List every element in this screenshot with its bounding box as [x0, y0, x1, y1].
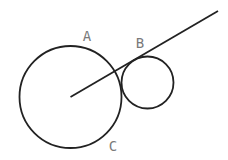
label-c: C: [109, 138, 117, 154]
diagram-canvas: A B C: [0, 0, 228, 160]
geometry-diagram: A B C: [0, 0, 228, 160]
small-circle: [122, 57, 174, 109]
label-a: A: [83, 28, 92, 44]
tangent-ray: [71, 11, 219, 97]
label-b: B: [136, 35, 144, 51]
